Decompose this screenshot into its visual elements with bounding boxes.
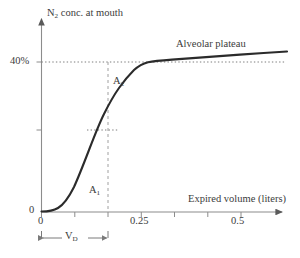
y-axis-ticks: [37, 62, 42, 130]
y-tick-label-40-percent: 40%: [10, 56, 29, 67]
y-axis-title-main: N: [47, 7, 55, 18]
annotation-area-a2-main: A: [113, 75, 121, 86]
x-tick-label-025: 0.25: [130, 216, 148, 227]
x-tick-label-0: 0: [38, 216, 43, 227]
y-axis-title-subscript: 2: [55, 12, 59, 20]
annotation-area-a1-main: A: [89, 184, 97, 195]
y-axis-title-tail: conc. at mouth: [58, 7, 123, 18]
annotation-area-a1: A1: [89, 185, 100, 196]
chart-plot-area: [0, 0, 300, 258]
y-axis-title: N2 conc. at mouth: [47, 8, 123, 19]
washout-curve: [42, 52, 288, 212]
x-axis-title: Expired volume (liters): [188, 194, 286, 205]
x-tick-label-05: 0.5: [231, 216, 244, 227]
annotation-area-a2: A2: [113, 76, 124, 87]
nitrogen-washout-chart: N2 conc. at mouth Expired volume (liters…: [0, 0, 300, 258]
annotation-area-a2-subscript: 2: [121, 80, 125, 88]
annotation-alveolar-plateau: Alveolar plateau: [176, 39, 246, 50]
annotation-dead-space-vd: VD: [65, 231, 78, 242]
annotation-dead-space-subscript: D: [73, 235, 78, 243]
annotation-area-a1-subscript: 1: [97, 189, 101, 197]
y-tick-label-zero: 0: [29, 205, 34, 216]
annotation-dead-space-main: V: [65, 230, 73, 241]
